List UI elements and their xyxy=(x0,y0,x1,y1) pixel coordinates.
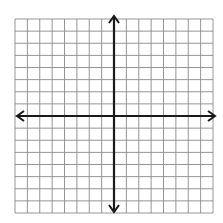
coordinate-plane xyxy=(0,0,223,223)
y-axis xyxy=(109,16,119,212)
x-axis xyxy=(17,111,215,121)
